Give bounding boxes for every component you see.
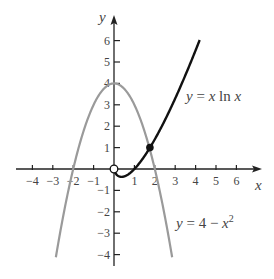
- curve-label-parabola: y = 4 − x2: [174, 213, 234, 231]
- intersection-point: [146, 144, 154, 152]
- y-tick-label: 6: [104, 34, 110, 48]
- y-tick-label: −3: [97, 226, 110, 240]
- y-tick-label: 1: [104, 141, 110, 155]
- y-ticks: 654321−1−2−3−4: [97, 34, 120, 262]
- x-tick-label: 4: [193, 174, 199, 188]
- x-axis-label: x: [254, 177, 262, 193]
- curve-label-xlnx: y = x ln x: [184, 88, 241, 104]
- y-axis-label: y: [97, 9, 106, 25]
- curve-xlnx: [114, 40, 200, 177]
- x-tick-label: −4: [26, 174, 39, 188]
- y-tick-label: 3: [104, 98, 110, 112]
- y-tick-label: 5: [104, 55, 110, 69]
- y-tick-label: 2: [104, 119, 110, 133]
- open-circle-origin: [110, 165, 118, 173]
- y-tick-label: −2: [97, 205, 110, 219]
- x-tick-label: 5: [213, 174, 219, 188]
- function-graph: −4−3−2−1123456 654321−1−2−3−4 y x y = x …: [0, 0, 274, 279]
- y-tick-label: −1: [97, 183, 110, 197]
- x-tick-label: 3: [172, 174, 178, 188]
- y-tick-label: −4: [97, 248, 110, 262]
- x-tick-label: 6: [233, 174, 239, 188]
- x-tick-label: −3: [46, 174, 59, 188]
- x-tick-label: 1: [131, 174, 137, 188]
